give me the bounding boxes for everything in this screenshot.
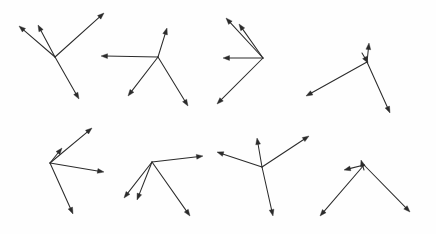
- arrow-cluster-diagram: [0, 0, 436, 234]
- figure-canvas: [0, 0, 436, 234]
- canvas-background: [0, 0, 436, 234]
